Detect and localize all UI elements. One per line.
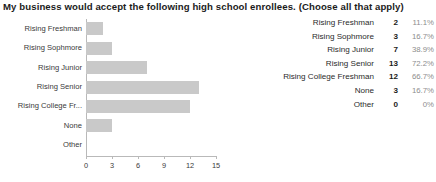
- y-axis-label: Rising College Fr...: [0, 102, 82, 110]
- y-axis-label: Rising Senior: [0, 83, 82, 91]
- response-label: Rising Junior: [327, 45, 374, 54]
- response-percent: 38.9%: [402, 45, 434, 54]
- response-count: 2: [378, 18, 398, 27]
- x-axis-tick: [164, 156, 165, 159]
- bar: [86, 42, 112, 55]
- response-count: 3: [378, 32, 398, 41]
- y-axis-label: Rising Freshman: [0, 25, 82, 33]
- response-percent: 66.7%: [402, 72, 434, 81]
- response-count: 7: [378, 45, 398, 54]
- response-percent: 16.7%: [402, 86, 434, 95]
- y-axis-label: None: [0, 122, 82, 130]
- bar: [86, 61, 147, 74]
- x-axis-tick: [190, 156, 191, 159]
- response-label: Rising Sophmore: [312, 32, 374, 41]
- x-axis-tick: [138, 156, 139, 159]
- table-row: Rising Junior738.9%: [252, 45, 434, 59]
- y-axis-label: Other: [0, 141, 82, 149]
- x-axis-tick: [112, 156, 113, 159]
- y-axis-label: Rising Sophmore: [0, 44, 82, 52]
- x-axis-tick-label: 15: [206, 161, 226, 170]
- bar: [86, 22, 103, 35]
- x-axis-tick: [216, 156, 217, 159]
- x-axis-tick-label: 6: [128, 161, 148, 170]
- response-label: None: [355, 86, 374, 95]
- response-count: 3: [378, 86, 398, 95]
- response-label: Other: [354, 100, 374, 109]
- bar: [86, 100, 190, 113]
- response-count: 12: [378, 72, 398, 81]
- x-axis-tick-label: 12: [180, 161, 200, 170]
- x-axis-tick-label: 9: [154, 161, 174, 170]
- table-row: Rising Sophmore316.7%: [252, 32, 434, 46]
- response-percent: 0%: [402, 100, 434, 109]
- bar: [86, 119, 112, 132]
- bar-chart: Rising FreshmanRising SophmoreRising Jun…: [0, 19, 232, 182]
- table-row: Other00%: [252, 100, 434, 114]
- response-label: Rising College Freshman: [283, 72, 374, 81]
- page-title: My business would accept the following h…: [3, 1, 433, 12]
- response-count: 13: [378, 59, 398, 68]
- response-summary-table: Rising Freshman211.1%Rising Sophmore316.…: [252, 18, 434, 113]
- bar: [86, 81, 199, 94]
- response-percent: 11.1%: [402, 18, 434, 27]
- table-row: None316.7%: [252, 86, 434, 100]
- response-label: Rising Senior: [326, 59, 374, 68]
- y-axis-label: Rising Junior: [0, 64, 82, 72]
- response-percent: 16.7%: [402, 32, 434, 41]
- response-percent: 72.2%: [402, 59, 434, 68]
- x-axis-line: [86, 156, 217, 157]
- x-axis-tick-label: 0: [76, 161, 96, 170]
- x-axis-tick: [86, 156, 87, 159]
- x-axis-tick-label: 3: [102, 161, 122, 170]
- response-count: 0: [378, 100, 398, 109]
- table-row: Rising Freshman211.1%: [252, 18, 434, 32]
- response-label: Rising Freshman: [313, 18, 374, 27]
- table-row: Rising College Freshman1266.7%: [252, 72, 434, 86]
- table-row: Rising Senior1372.2%: [252, 59, 434, 73]
- plot-bars: [86, 19, 216, 155]
